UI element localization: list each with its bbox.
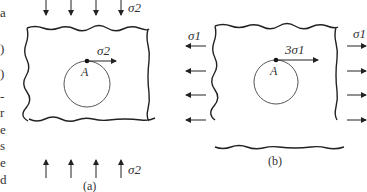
panel-b-caption: (b) [268,154,282,168]
point-a-stress-label: σ2 [97,43,110,58]
point-b-stress-label: 3σ1 [284,42,304,57]
panel-b: σ1 σ1 3σ1 A (b) [186,24,366,169]
top-compression-arrows [46,0,121,15]
plate-b-outline [211,24,344,149]
stress-concentration-diagram: σ2 σ2 A σ2 (a) σ1 [0,0,367,192]
point-b-label: A [269,64,278,78]
panel-a: σ2 σ2 A σ2 (a) [23,0,155,192]
left-tension-arrows [186,46,206,120]
panel-a-caption: (a) [83,179,96,192]
right-tension-arrows [347,46,366,120]
top-load-label: σ2 [128,0,141,15]
point-a-label: A [80,65,89,79]
left-load-label: σ1 [188,28,201,43]
right-load-label: σ1 [353,26,366,41]
bottom-load-label: σ2 [128,162,141,177]
bottom-compression-arrows [46,160,121,178]
